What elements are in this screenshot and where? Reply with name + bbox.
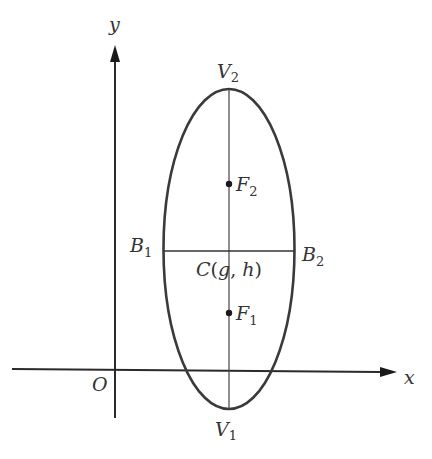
focus-f1-sub: 1 (249, 313, 257, 328)
center-name: C (196, 258, 211, 280)
ellipse-diagram: y x O V2 V1 F2 F1 B1 B2 C(g, h) (0, 0, 432, 459)
focus-f1-dot (226, 310, 232, 316)
diagram-svg: y x O V2 V1 F2 F1 B1 B2 C(g, h) (0, 0, 432, 459)
center-g: g (218, 258, 230, 280)
focus-f2-sub: 2 (249, 184, 257, 199)
covertex-b2-name: B (301, 243, 316, 265)
covertex-b1-sub: 1 (144, 245, 152, 260)
y-axis-arrow-icon (110, 45, 120, 62)
focus-f1-name: F (235, 302, 250, 324)
center-comma: , (230, 258, 242, 280)
x-axis-label: x (404, 366, 415, 388)
y-axis-label: y (108, 13, 120, 35)
focus-f1-label: F1 (235, 302, 257, 328)
vertex-v2-label: V2 (217, 60, 239, 85)
covertex-b1-name: B (129, 234, 144, 256)
covertex-b2-label: B2 (301, 243, 324, 269)
center-label: C(g, h) (196, 258, 262, 280)
vertex-v1-sub: 1 (229, 428, 237, 443)
covertex-b1-label: B1 (129, 234, 152, 260)
center-h: h (242, 258, 254, 280)
focus-f2-label: F2 (235, 173, 257, 199)
center-open-paren: ( (211, 258, 218, 280)
origin-label: O (92, 373, 108, 395)
vertex-v1-label: V1 (215, 418, 237, 443)
focus-f2-name: F (235, 173, 250, 195)
x-axis-arrow-icon (380, 367, 397, 377)
focus-f2-dot (226, 181, 232, 187)
vertex-v2-sub: 2 (231, 70, 239, 85)
x-axis (12, 369, 380, 372)
covertex-b2-sub: 2 (316, 254, 324, 269)
center-close-paren: ) (254, 258, 261, 280)
